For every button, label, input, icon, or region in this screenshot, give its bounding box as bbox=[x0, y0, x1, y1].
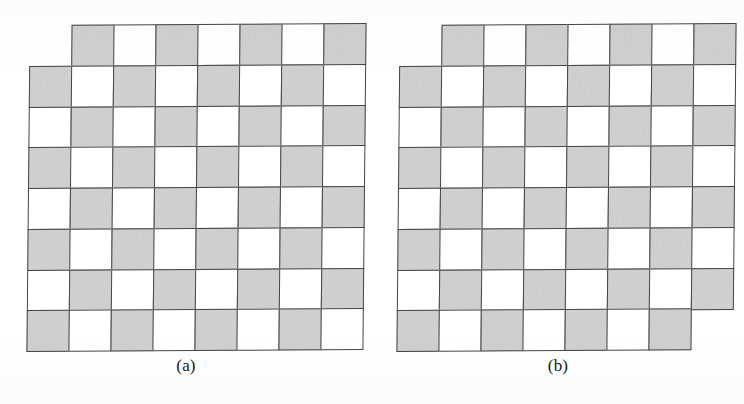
board-cell bbox=[153, 268, 197, 310]
board-cell bbox=[525, 65, 569, 107]
board-cell bbox=[27, 229, 71, 271]
board-cell bbox=[608, 186, 652, 228]
board-cell bbox=[71, 65, 115, 107]
board-cell bbox=[567, 24, 611, 66]
board-cell bbox=[609, 23, 653, 65]
board-cell bbox=[566, 105, 610, 147]
board-cell bbox=[649, 227, 693, 269]
board-cell bbox=[566, 146, 610, 188]
board-cell bbox=[111, 228, 155, 270]
board-cell bbox=[237, 227, 281, 269]
board-cell bbox=[397, 269, 441, 311]
figure-panel-a: (a) bbox=[0, 0, 372, 404]
board-cell bbox=[322, 104, 366, 146]
board-cell bbox=[651, 23, 695, 65]
board-cell bbox=[280, 105, 324, 147]
board-cell bbox=[565, 227, 609, 269]
board-cell bbox=[691, 227, 735, 269]
board-cell bbox=[236, 309, 280, 351]
board-cell bbox=[113, 65, 157, 107]
board-cell bbox=[566, 187, 610, 229]
board-cell bbox=[69, 269, 113, 311]
board-cell bbox=[650, 145, 694, 187]
board-cell bbox=[481, 269, 525, 311]
board-cell bbox=[609, 64, 653, 106]
board-cell bbox=[397, 229, 441, 271]
checkerboard-b bbox=[396, 23, 735, 351]
board-cell bbox=[279, 227, 323, 269]
checkerboard-a bbox=[26, 23, 365, 351]
board-cell bbox=[398, 106, 442, 148]
board-cell bbox=[153, 228, 197, 270]
board-cell bbox=[238, 105, 282, 147]
board-cell bbox=[608, 105, 652, 147]
board-cell bbox=[524, 146, 568, 188]
board-cell bbox=[482, 146, 526, 188]
board-cell bbox=[438, 310, 482, 352]
board-cell bbox=[440, 147, 484, 189]
board-cell bbox=[481, 228, 525, 270]
board-cell bbox=[321, 267, 365, 309]
board-cell bbox=[564, 309, 608, 351]
board-cell bbox=[322, 145, 366, 187]
board-cell bbox=[483, 24, 527, 66]
board-cell bbox=[399, 66, 443, 108]
board-cell bbox=[197, 64, 241, 106]
board-cell bbox=[195, 268, 239, 310]
board-cell bbox=[154, 187, 198, 229]
figure-panel-b: (b) bbox=[372, 0, 744, 404]
board-cell bbox=[196, 105, 240, 147]
board-cell bbox=[154, 105, 198, 147]
board-cell bbox=[651, 64, 695, 106]
board-cell bbox=[440, 106, 484, 148]
board-cell bbox=[152, 309, 196, 351]
board-cell bbox=[112, 146, 156, 188]
board-cell bbox=[398, 147, 442, 189]
board-cell bbox=[567, 64, 611, 106]
board-cell bbox=[279, 268, 323, 310]
board-cell bbox=[281, 64, 325, 106]
board-cell bbox=[648, 308, 692, 350]
board-cell bbox=[239, 23, 283, 65]
board-cell bbox=[650, 186, 694, 228]
board-cell bbox=[71, 24, 115, 66]
board-cell bbox=[607, 268, 651, 310]
board-cell bbox=[522, 309, 566, 351]
board-cell bbox=[323, 23, 367, 65]
board-cell bbox=[608, 146, 652, 188]
board-cell bbox=[607, 227, 651, 269]
board-cell bbox=[441, 65, 485, 107]
board-cell bbox=[524, 105, 568, 147]
board-cell bbox=[68, 310, 112, 352]
board-cell bbox=[28, 106, 72, 148]
board-cell bbox=[523, 268, 567, 310]
board-cell bbox=[238, 186, 282, 228]
board-cell bbox=[197, 24, 241, 66]
board-cell bbox=[321, 227, 365, 269]
board-cell bbox=[693, 64, 737, 106]
board-cell bbox=[29, 66, 73, 108]
board-cell bbox=[69, 228, 113, 270]
board-cell bbox=[691, 267, 735, 309]
board-cell bbox=[196, 187, 240, 229]
board-cell bbox=[27, 269, 71, 311]
board-cell bbox=[565, 268, 609, 310]
board-cell bbox=[441, 24, 485, 66]
board-cell bbox=[70, 106, 114, 148]
board-cell bbox=[238, 146, 282, 188]
board-cell bbox=[525, 24, 569, 66]
board-cell bbox=[196, 146, 240, 188]
board-cell bbox=[237, 268, 281, 310]
board-cell bbox=[650, 105, 694, 147]
board-cell bbox=[523, 228, 567, 270]
board-cell bbox=[280, 145, 324, 187]
board-cell bbox=[439, 228, 483, 270]
board-cell bbox=[398, 188, 442, 230]
board-cell bbox=[112, 187, 156, 229]
board-cell bbox=[692, 104, 736, 146]
board-cell bbox=[155, 65, 199, 107]
board-cell bbox=[70, 147, 114, 189]
board-cell bbox=[396, 310, 440, 352]
board-cell bbox=[278, 308, 322, 350]
board-cell bbox=[195, 227, 239, 269]
